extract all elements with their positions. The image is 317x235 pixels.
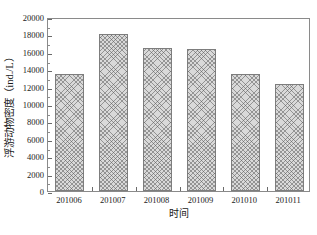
x-axis-tick-label: 201007 [91, 195, 135, 206]
y-axis-minor-tick-mark [48, 63, 50, 64]
x-axis-tick-label: 201008 [135, 195, 179, 206]
y-axis-minor-tick-mark [48, 150, 50, 151]
y-axis-minor-tick-mark [48, 80, 50, 81]
x-axis-tick-mark [223, 187, 224, 191]
bar [99, 34, 128, 191]
y-axis-tick-label: 20000 [10, 14, 44, 23]
y-axis-tick-label: 10000 [10, 101, 44, 110]
y-axis-tick-labels: 0200040006000800010000120001400016000180… [10, 12, 44, 194]
y-axis-tick-label: 18000 [10, 31, 44, 40]
y-axis-tick-label: 12000 [10, 83, 44, 92]
bar [231, 74, 260, 191]
y-axis-tick-mark [48, 71, 52, 72]
y-axis-tick-label: 8000 [10, 118, 44, 127]
bar [187, 49, 216, 191]
bar [143, 48, 172, 191]
x-axis-tick-labels: 201006201007201008201009201010201011 [47, 195, 310, 207]
bar [55, 74, 84, 191]
y-axis-minor-tick-mark [48, 184, 50, 185]
x-axis-tick-mark [267, 187, 268, 191]
plot-area [47, 18, 310, 192]
y-axis-minor-tick-mark [48, 115, 50, 116]
y-axis-minor-tick-mark [48, 97, 50, 98]
y-axis-minor-tick-mark [48, 45, 50, 46]
y-axis-minor-tick-mark [48, 167, 50, 168]
y-axis-tick-label: 16000 [10, 48, 44, 57]
y-axis-tick-label: 4000 [10, 153, 44, 162]
y-axis-minor-tick-mark [48, 132, 50, 133]
x-axis-tick-label: 201009 [179, 195, 223, 206]
y-axis-tick-label: 0 [10, 188, 44, 197]
y-axis-tick-mark [48, 54, 52, 55]
bar-chart: 浮游动物密度（ind./L） 0200040006000800010000120… [0, 0, 317, 235]
x-axis-tick-label: 201010 [222, 195, 266, 206]
x-axis-title: 时间 [47, 207, 310, 220]
y-axis-tick-label: 2000 [10, 170, 44, 179]
bars-layer [48, 19, 309, 191]
y-axis-tick-mark [48, 89, 52, 90]
y-axis-tick-mark [48, 158, 52, 159]
bar [275, 84, 304, 191]
x-axis-tick-label: 201011 [266, 195, 310, 206]
y-axis-tick-label: 14000 [10, 66, 44, 75]
x-axis-tick-label: 201006 [47, 195, 91, 206]
y-axis-minor-tick-mark [48, 28, 50, 29]
x-axis-tick-mark [92, 187, 93, 191]
y-axis-tick-mark [48, 141, 52, 142]
y-axis-tick-mark [48, 19, 52, 20]
x-axis-tick-mark [136, 187, 137, 191]
y-axis-tick-mark [48, 123, 52, 124]
x-axis-tick-mark [180, 187, 181, 191]
y-axis-tick-mark [48, 176, 52, 177]
y-axis-tick-mark [48, 193, 52, 194]
y-axis-tick-mark [48, 106, 52, 107]
y-axis-tick-label: 6000 [10, 135, 44, 144]
y-axis-tick-mark [48, 36, 52, 37]
